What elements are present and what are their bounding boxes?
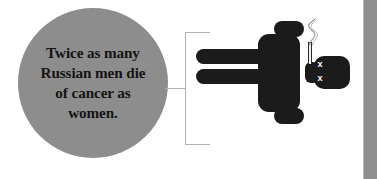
figure-torso-icon bbox=[258, 34, 300, 112]
dead-male-smoker-figure: x x bbox=[196, 18, 356, 130]
figure-dead-eye-top-icon: x bbox=[316, 60, 324, 68]
smoke-curl-icon bbox=[300, 18, 326, 46]
bracket-bottom-arm bbox=[185, 144, 210, 145]
callout-leader-line bbox=[165, 88, 186, 89]
statistic-text: Twice as many Russian men die of cancer … bbox=[27, 43, 159, 124]
page-edge-strip bbox=[364, 0, 377, 179]
bracket-spine bbox=[185, 32, 186, 145]
figure-dead-eye-bottom-icon: x bbox=[316, 74, 324, 82]
statistic-callout-circle: Twice as many Russian men die of cancer … bbox=[18, 8, 168, 158]
infographic-root: Twice as many Russian men die of cancer … bbox=[0, 0, 377, 179]
cigarette-burning-tip-icon bbox=[308, 64, 312, 70]
